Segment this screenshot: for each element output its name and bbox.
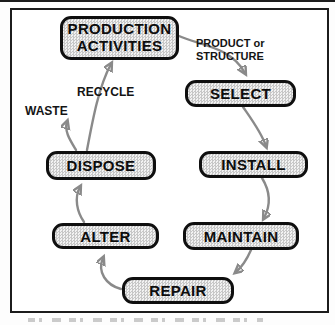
- scan-artifact-top-line: [0, 0, 335, 2]
- node-dispose: DISPOSE: [46, 151, 156, 180]
- node-install: INSTALL: [199, 151, 308, 178]
- node-select: SELECT: [185, 80, 296, 107]
- node-alter: ALTER: [52, 223, 159, 249]
- node-production-activities: PRODUCTION ACTIVITIES: [60, 16, 179, 60]
- node-repair: REPAIR: [122, 277, 234, 304]
- node-maintain: MAINTAIN: [183, 222, 299, 250]
- label-waste: WASTE: [25, 105, 68, 119]
- figure-life-cycle-diagram: PRODUCTION ACTIVITIES SELECT INSTALL MAI…: [0, 0, 335, 325]
- label-recycle: RECYCLE: [77, 86, 134, 100]
- label-product-or-structure: PRODUCT or STRUCTURE: [196, 37, 264, 62]
- cropped-caption-fragment: [28, 318, 263, 322]
